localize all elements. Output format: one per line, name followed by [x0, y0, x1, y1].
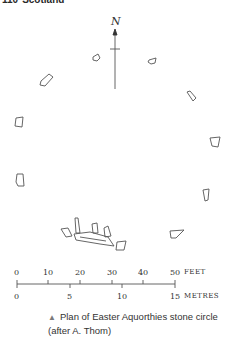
scale-metre-tick: 15: [170, 292, 180, 301]
caption-text: Plan of Easter Aquorthies stone circle (…: [48, 311, 218, 336]
scale-feet-tick: 30: [107, 268, 117, 277]
scale-bar: [17, 280, 175, 288]
scale-feet-unit: FEET: [184, 268, 206, 276]
stone: [210, 137, 220, 147]
scale-feet-tick: 20: [75, 268, 85, 277]
stone: [93, 54, 100, 61]
stone: [40, 74, 53, 86]
stone: [187, 91, 196, 101]
stone: [203, 189, 209, 201]
scale-feet-tick: 50: [170, 268, 180, 277]
figure-caption: ▲Plan of Easter Aquorthies stone circle …: [48, 310, 228, 337]
stone: [16, 174, 24, 186]
stone: [148, 58, 156, 64]
stone: [170, 230, 184, 238]
scale-metre-tick: 5: [67, 292, 72, 301]
north-label: N: [111, 15, 121, 28]
recumbent-stone-group: [61, 218, 126, 250]
scale-feet-tick: 0: [14, 268, 19, 277]
scale-metre-tick: 10: [117, 292, 127, 301]
scale-metre-unit: METRES: [184, 292, 219, 300]
north-arrow-icon: [110, 29, 120, 89]
scale-feet-tick: 40: [138, 268, 148, 277]
stone: [15, 117, 23, 127]
scale-metre-tick: 0: [14, 292, 19, 301]
scale-feet-tick: 10: [43, 268, 53, 277]
stone-circle-plan: [0, 0, 229, 339]
triangle-marker-icon: ▲: [48, 313, 56, 322]
